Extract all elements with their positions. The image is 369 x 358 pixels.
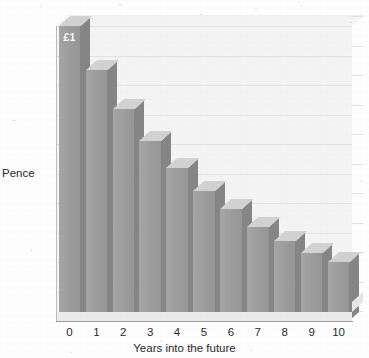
gridline-depth (351, 164, 364, 165)
scan-speck (12, 120, 16, 121)
bar-front-face (274, 241, 296, 321)
bar[interactable] (193, 181, 215, 321)
x-axis-tick-label: 3 (139, 327, 161, 339)
bar[interactable] (328, 252, 350, 321)
bar[interactable] (301, 243, 323, 321)
bar-front-face (113, 109, 135, 321)
bar-side-face (349, 253, 359, 321)
gridline-depth (351, 75, 364, 76)
x-axis-tick-label: 6 (220, 327, 242, 339)
scan-speck (300, 5, 302, 6)
scan-speck (250, 350, 252, 351)
bar[interactable] (166, 158, 188, 321)
gridline-depth (351, 16, 364, 17)
gridline-depth (351, 105, 364, 106)
plot-backwall (56, 15, 364, 26)
scan-speck (118, 4, 123, 5)
x-axis-tick-label: 0 (59, 327, 81, 339)
plot-area: £1 (56, 26, 352, 321)
bar[interactable] (139, 131, 161, 321)
x-axis-tick-label: 5 (193, 327, 215, 339)
gridline (56, 26, 352, 27)
x-axis-title: Years into the future (0, 343, 369, 355)
bar-front-face (139, 141, 161, 321)
bar-front-face (301, 253, 323, 321)
y-axis-line (56, 26, 57, 322)
scan-speck (200, 14, 202, 15)
bar-value-label: £1 (59, 32, 81, 43)
bar-front-face: £1 (59, 26, 81, 321)
x-axis-tick-label: 1 (86, 327, 108, 339)
gridline-depth (351, 223, 364, 224)
bar-front-face (247, 227, 269, 321)
gridline-depth (351, 46, 364, 47)
y-axis-title: Pence (2, 168, 35, 180)
x-axis-tick-label: 2 (113, 327, 135, 339)
bar-front-face (86, 70, 108, 321)
scan-speck (88, 18, 93, 19)
x-axis-tick-label: 8 (274, 327, 296, 339)
scan-speck (30, 250, 32, 251)
scan-speck (70, 352, 72, 353)
gridline-depth (351, 134, 364, 135)
x-axis-tick-label: 7 (247, 327, 269, 339)
x-axis-tick-label: 9 (301, 327, 323, 339)
scan-speck (350, 22, 352, 23)
scan-speck (360, 180, 362, 181)
bar[interactable] (274, 231, 296, 321)
gridline-depth (351, 193, 364, 194)
bar-chart: £1 0102030405060708090100 Pence 01234567… (0, 0, 369, 358)
scan-speck (160, 340, 162, 341)
scan-speck (255, 8, 257, 9)
x-axis-tick-label: 10 (328, 327, 350, 339)
bar[interactable] (86, 60, 108, 321)
bar[interactable]: £1 (59, 16, 81, 321)
gridline (56, 56, 352, 57)
scan-speck (40, 6, 42, 7)
bar-front-face (193, 191, 215, 321)
bar[interactable] (220, 199, 242, 321)
bar[interactable] (247, 217, 269, 321)
x-axis-tick-label: 4 (166, 327, 188, 339)
bar-front-face (220, 209, 242, 321)
x-axis-line (56, 321, 353, 322)
bar[interactable] (113, 99, 135, 321)
bar-front-face (166, 168, 188, 321)
